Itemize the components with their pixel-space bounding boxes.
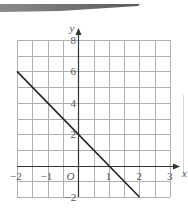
- x-tick-label: −2: [10, 170, 22, 182]
- x-tick-label: −1: [41, 170, 53, 182]
- x-tick-label: 2: [136, 170, 142, 182]
- y-tick-label: 6: [71, 65, 77, 77]
- x-tick-label: 1: [106, 170, 112, 182]
- y-tick-label: −2: [65, 191, 77, 203]
- x-axis-label: x: [181, 167, 187, 179]
- x-tick-label: 3: [167, 170, 173, 182]
- y-tick-label: 4: [71, 97, 77, 109]
- origin-label: O: [67, 170, 75, 182]
- line-graph: xyO−2−1123−22468: [0, 0, 188, 209]
- y-axis-label: y: [69, 22, 75, 34]
- y-axis-arrow-icon: [76, 28, 82, 35]
- y-tick-label: 8: [71, 34, 77, 46]
- x-axis-arrow-icon: [173, 164, 180, 170]
